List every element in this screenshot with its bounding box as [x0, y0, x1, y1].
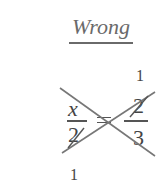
- slash-left-denominator: [68, 128, 84, 148]
- strike-line-up: [62, 92, 155, 153]
- cancellation-strike-lines: [0, 0, 156, 187]
